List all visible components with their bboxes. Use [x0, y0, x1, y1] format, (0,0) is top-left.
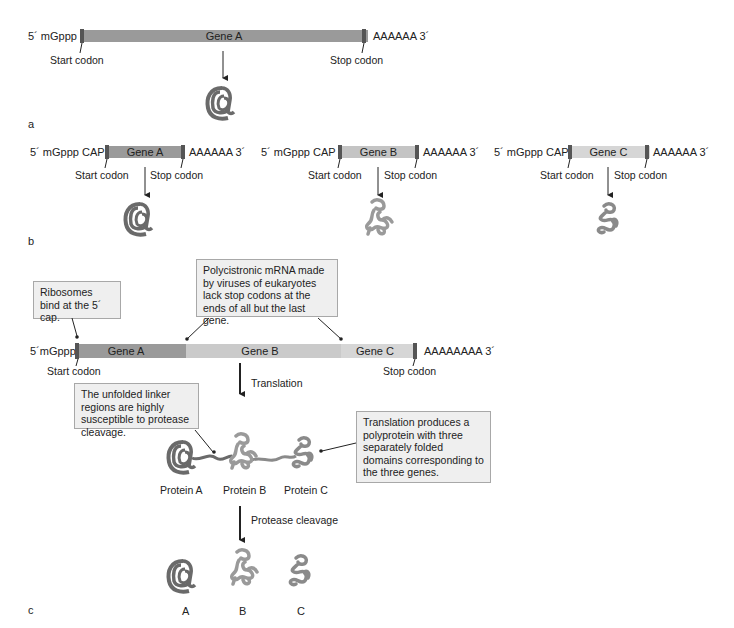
diagram-graphics: [0, 0, 734, 628]
